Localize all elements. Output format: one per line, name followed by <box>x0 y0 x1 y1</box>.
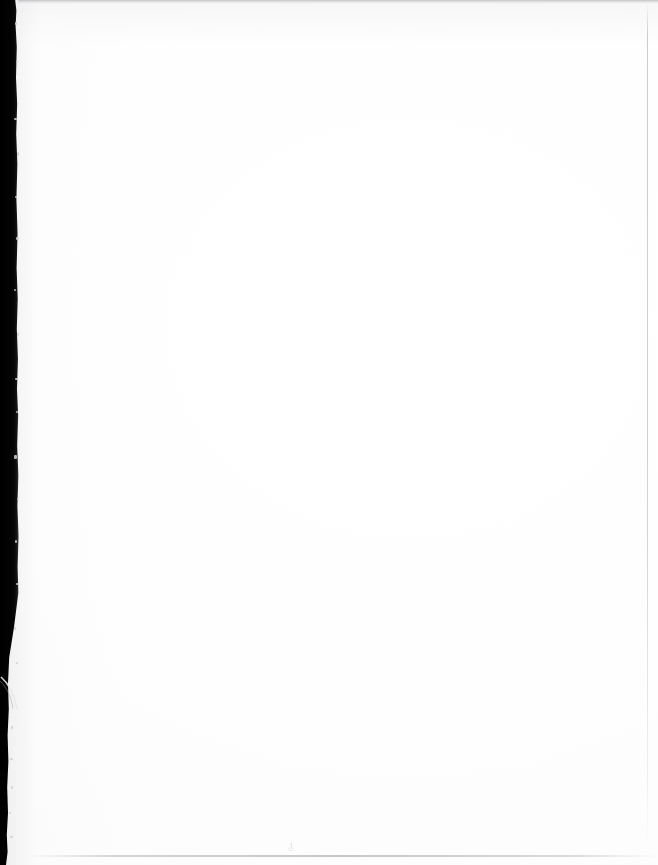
page-body <box>30 14 642 851</box>
scanned-page <box>0 0 658 865</box>
